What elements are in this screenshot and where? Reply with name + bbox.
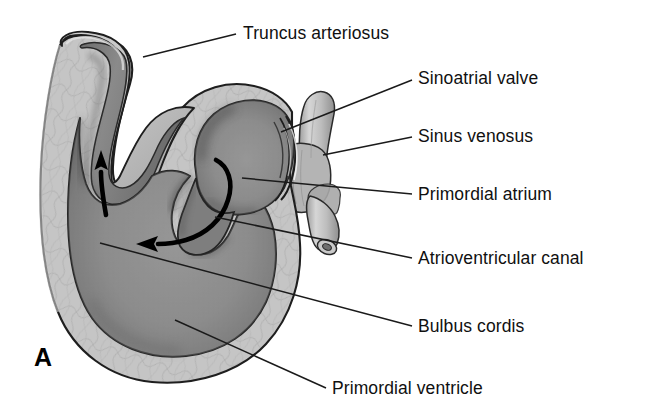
label-bulbus-cordis: Bulbus cordis [418,318,524,336]
label-atrioventricular-canal: Atrioventricular canal [418,250,584,268]
label-sinus-venosus: Sinus venosus [418,128,533,146]
heart-illustration [0,0,655,419]
label-primordial-ventricle: Primordial ventricle [332,380,483,398]
label-truncus-arteriosus: Truncus arteriosus [243,25,389,43]
label-sinoatrial-valve: Sinoatrial valve [418,70,538,88]
leader-sinus-venosus [323,137,412,155]
label-primordial-atrium: Primordial atrium [418,186,552,204]
heart-diagram-figure: Truncus arteriosus Sinoatrial valve Sinu… [0,0,655,419]
leader-sinoatrial-valve [281,80,412,132]
panel-letter-a: A [34,345,52,370]
leader-truncus-arteriosus [143,34,236,57]
